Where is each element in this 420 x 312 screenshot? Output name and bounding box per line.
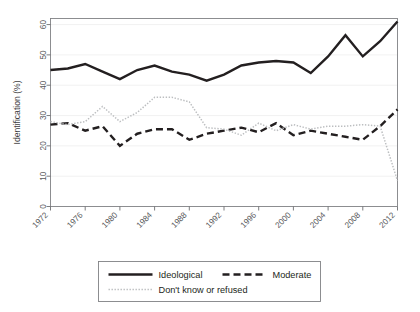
y-axis-title: Identification (%) [12, 80, 22, 144]
svg-text:10: 10 [39, 171, 48, 181]
legend-box [99, 262, 321, 302]
svg-text:20: 20 [39, 141, 48, 151]
svg-text:60: 60 [39, 20, 48, 30]
svg-text:30: 30 [39, 111, 48, 121]
svg-text:50: 50 [39, 50, 48, 60]
svg-text:40: 40 [39, 80, 48, 90]
svg-text:0: 0 [39, 204, 48, 209]
legend-label: Don't know or refused [159, 285, 248, 295]
chart-svg: 0102030405060 19721976198019841988199219… [0, 0, 420, 312]
chart-figure: 0102030405060 19721976198019841988199219… [0, 0, 420, 312]
legend-label: Moderate [273, 270, 312, 280]
chart-legend: IdeologicalModerateDon't know or refused [99, 262, 321, 302]
legend-label: Ideological [159, 270, 203, 280]
